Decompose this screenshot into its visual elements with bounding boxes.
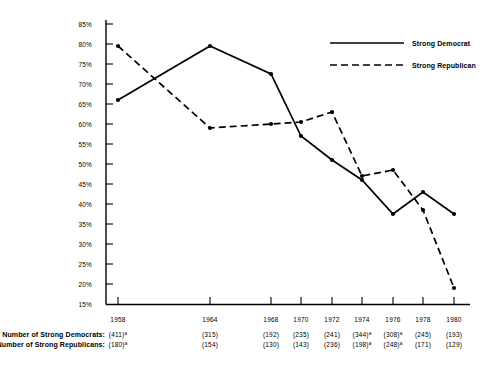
- table-cell: (154): [202, 341, 218, 349]
- y-tick-label: 60%: [78, 121, 92, 128]
- data-point: [452, 286, 456, 290]
- data-point: [116, 98, 120, 102]
- data-point: [421, 208, 425, 212]
- bottom-table-row-labels: Number of Strong Democrats: Number of St…: [0, 331, 105, 349]
- line-strong-republican: [118, 46, 454, 288]
- x-axis-ticks: [118, 297, 454, 305]
- y-tick-label: 75%: [78, 61, 92, 68]
- data-point: [421, 190, 425, 194]
- line-chart: 85% 80% 75% 70% 65% 60% 55% 50% 45% 40% …: [0, 0, 485, 366]
- data-point: [116, 44, 120, 48]
- data-point: [299, 134, 303, 138]
- data-point: [330, 110, 334, 114]
- table-cell: (198)a: [353, 341, 372, 350]
- x-tick-label: 1980: [446, 316, 461, 323]
- bottom-table-row-republicans: (180)a (154) (130) (143) (236) (198)a (2…: [109, 341, 463, 350]
- y-tick-label: 65%: [78, 101, 92, 108]
- line-strong-democrat: [118, 46, 454, 214]
- x-tick-label: 1958: [110, 316, 125, 323]
- y-tick-label: 25%: [78, 261, 92, 268]
- y-axis-ticks: [106, 24, 113, 284]
- data-point: [299, 120, 303, 124]
- table-cell: (130): [263, 341, 279, 349]
- table-cell: (245): [415, 331, 431, 339]
- x-tick-label: 1978: [415, 316, 430, 323]
- table-cell: (180)a: [109, 341, 128, 350]
- table-cell: (248)a: [384, 341, 403, 350]
- data-point: [452, 212, 456, 216]
- legend-label-strong-democrat: Strong Democrat: [412, 40, 471, 48]
- x-axis-year-labels: 1958 1964 1968 1970 1972 1974 1976 1978 …: [110, 316, 461, 323]
- data-point: [360, 174, 364, 178]
- x-tick-label: 1976: [385, 316, 400, 323]
- table-cell: (235): [293, 331, 309, 339]
- bottom-table-row-democrats: (411)a (315) (192) (235) (241) (344)a (3…: [109, 331, 462, 340]
- row-label-republicans: Number of Strong Republicans:: [0, 341, 105, 349]
- y-tick-label: 35%: [78, 221, 92, 228]
- x-tick-label: 1974: [354, 316, 369, 323]
- data-point: [391, 212, 395, 216]
- y-tick-label: 70%: [78, 81, 92, 88]
- table-cell: (411)a: [109, 331, 128, 340]
- y-tick-label: 50%: [78, 161, 92, 168]
- y-tick-label: 20%: [78, 281, 92, 288]
- series-strong-republican: [116, 44, 456, 290]
- legend-label-strong-republican: Strong Republican: [412, 62, 476, 70]
- data-point: [330, 158, 334, 162]
- y-tick-label: 85%: [78, 21, 92, 28]
- x-tick-label: 1972: [324, 316, 339, 323]
- row-label-democrats: Number of Strong Democrats:: [2, 331, 105, 339]
- data-point: [269, 122, 273, 126]
- data-point: [208, 126, 212, 130]
- table-cell: (315): [202, 331, 218, 339]
- table-cell: (171): [415, 341, 431, 349]
- table-cell: (344)a: [353, 331, 372, 340]
- data-point: [391, 168, 395, 172]
- chart-container: 85% 80% 75% 70% 65% 60% 55% 50% 45% 40% …: [0, 0, 485, 366]
- x-tick-label: 1968: [263, 316, 278, 323]
- table-cell: (143): [293, 341, 309, 349]
- y-tick-label: 45%: [78, 181, 92, 188]
- y-tick-label: 80%: [78, 41, 92, 48]
- legend: Strong Democrat Strong Republican: [330, 40, 476, 70]
- y-axis-labels: 85% 80% 75% 70% 65% 60% 55% 50% 45% 40% …: [78, 21, 92, 308]
- table-cell: (192): [263, 331, 279, 339]
- y-tick-label: 55%: [78, 141, 92, 148]
- table-cell: (193): [446, 331, 462, 339]
- table-cell: (129): [446, 341, 462, 349]
- x-tick-label: 1964: [202, 316, 217, 323]
- y-tick-label: 40%: [78, 201, 92, 208]
- y-tick-label: 30%: [78, 241, 92, 248]
- data-point: [360, 178, 364, 182]
- table-cell: (236): [324, 341, 340, 349]
- table-cell: (241): [324, 331, 340, 339]
- y-tick-label: 15%: [78, 301, 92, 308]
- data-point: [208, 44, 212, 48]
- x-tick-label: 1970: [293, 316, 308, 323]
- data-point: [269, 72, 273, 76]
- series-strong-democrat: [116, 44, 456, 216]
- table-cell: (308)a: [384, 331, 403, 340]
